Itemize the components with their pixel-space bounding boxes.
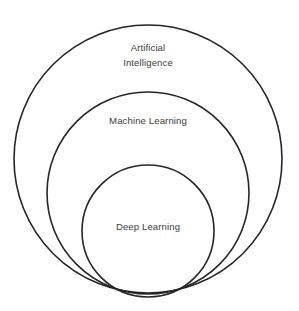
- label-artificial-intelligence-line2: Intelligence: [123, 57, 173, 68]
- nested-circles-diagram: Artificial Intelligence Machine Learning…: [0, 0, 299, 311]
- venn-diagram-canvas: Artificial Intelligence Machine Learning…: [0, 0, 299, 311]
- label-deep-learning: Deep Learning: [116, 221, 180, 232]
- label-machine-learning: Machine Learning: [109, 115, 187, 126]
- label-artificial-intelligence-line1: Artificial: [131, 42, 166, 53]
